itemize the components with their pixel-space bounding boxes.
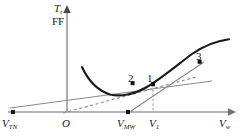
x-tick-label-vtn-main: V bbox=[2, 117, 9, 129]
y-axis-arrow-icon bbox=[63, 5, 70, 13]
steep-solid-line bbox=[128, 62, 204, 113]
x-tick-label-vmw-main: V bbox=[117, 117, 124, 129]
x-tick-label-v1: V1 bbox=[149, 118, 159, 130]
origin-label: O bbox=[62, 118, 70, 129]
y-axis-label-tt-sub: t bbox=[60, 8, 62, 15]
figure-container: Tt FF O VTN VMW V1 Vw 1 2 3 bbox=[0, 0, 241, 138]
x-tick-label-vmw: VMW bbox=[117, 118, 135, 130]
u-shaped-curve bbox=[82, 39, 229, 95]
x-axis-arrow-icon bbox=[228, 108, 236, 116]
point-label-3: 3 bbox=[196, 50, 202, 62]
y-axis-label-ff: FF bbox=[52, 16, 64, 27]
x-tick-label-v1-main: V bbox=[149, 117, 156, 129]
x-axis-end-label-sub: w bbox=[226, 123, 231, 130]
x-axis-end-label-main: V bbox=[219, 117, 226, 129]
x-tick-label-v1-sub: 1 bbox=[156, 123, 160, 130]
y-axis-label-tt: Tt bbox=[54, 3, 62, 15]
marker-tick-vtn bbox=[11, 110, 15, 114]
marker-tick-vmw bbox=[126, 110, 130, 114]
x-tick-label-vtn-sub: TN bbox=[9, 123, 18, 130]
point-label-1: 1 bbox=[147, 72, 153, 84]
x-tick-label-vtn: VTN bbox=[2, 118, 17, 130]
x-tick-label-vmw-sub: MW bbox=[124, 123, 136, 130]
point-label-2: 2 bbox=[128, 72, 134, 84]
x-axis-end-label: Vw bbox=[219, 118, 230, 130]
